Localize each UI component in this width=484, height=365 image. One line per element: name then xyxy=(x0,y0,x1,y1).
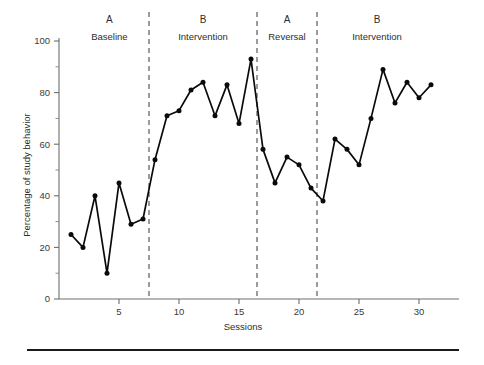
data-point-session-19 xyxy=(285,155,290,160)
series-line-study-behavior xyxy=(71,59,431,273)
data-point-session-29 xyxy=(405,80,410,85)
data-point-session-3 xyxy=(93,193,98,198)
x-tick-label-25: 25 xyxy=(354,306,365,317)
y-axis-title: Percentage of study behavior xyxy=(21,113,32,237)
data-point-session-11 xyxy=(189,88,194,93)
y-tick-label-20: 20 xyxy=(39,242,50,253)
data-point-session-2 xyxy=(81,245,86,250)
x-tick-label-5: 5 xyxy=(116,306,121,317)
phase-letter-3: A xyxy=(284,14,291,25)
data-point-session-22 xyxy=(321,198,326,203)
data-point-session-13 xyxy=(213,113,218,118)
data-point-session-14 xyxy=(225,82,230,87)
phase-letter-2: B xyxy=(200,14,207,25)
data-point-session-5 xyxy=(117,180,122,185)
data-point-session-25 xyxy=(357,162,362,167)
ab-reversal-design-chart: 02040608010051015202530ABaselineBInterve… xyxy=(0,0,484,365)
data-point-session-1 xyxy=(69,232,74,237)
data-point-session-21 xyxy=(309,186,314,191)
data-point-session-27 xyxy=(381,67,386,72)
data-point-session-31 xyxy=(429,82,434,87)
x-tick-label-10: 10 xyxy=(174,306,185,317)
data-point-session-24 xyxy=(345,147,350,152)
y-tick-label-40: 40 xyxy=(39,190,50,201)
y-tick-label-100: 100 xyxy=(34,35,50,46)
data-point-session-18 xyxy=(273,180,278,185)
data-point-session-6 xyxy=(129,222,134,227)
figure-container: 02040608010051015202530ABaselineBInterve… xyxy=(0,0,484,365)
phase-name-3: Reversal xyxy=(268,31,306,42)
phase-name-4: Intervention xyxy=(352,31,402,42)
data-point-session-20 xyxy=(297,162,302,167)
y-tick-label-60: 60 xyxy=(39,139,50,150)
data-point-session-7 xyxy=(141,217,146,222)
x-tick-label-15: 15 xyxy=(234,306,245,317)
data-point-session-23 xyxy=(333,137,338,142)
phase-name-2: Intervention xyxy=(178,31,228,42)
data-point-session-28 xyxy=(393,100,398,105)
data-point-session-4 xyxy=(105,271,110,276)
data-point-session-26 xyxy=(369,116,374,121)
data-point-session-12 xyxy=(201,80,206,85)
phase-letter-1: A xyxy=(106,14,113,25)
data-point-session-30 xyxy=(417,95,422,100)
y-tick-label-80: 80 xyxy=(39,87,50,98)
data-point-session-16 xyxy=(249,57,254,62)
y-tick-label-0: 0 xyxy=(45,293,50,304)
x-tick-label-30: 30 xyxy=(414,306,425,317)
data-point-session-8 xyxy=(153,157,158,162)
data-point-session-15 xyxy=(237,121,242,126)
data-point-session-9 xyxy=(165,113,170,118)
x-axis-title: Sessions xyxy=(224,321,263,332)
phase-name-1: Baseline xyxy=(91,31,127,42)
data-point-session-17 xyxy=(261,147,266,152)
phase-letter-4: B xyxy=(374,14,381,25)
x-tick-label-20: 20 xyxy=(294,306,305,317)
data-point-session-10 xyxy=(177,108,182,113)
